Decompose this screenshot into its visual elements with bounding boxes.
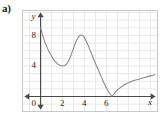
- y-tick-label: 8: [32, 31, 37, 40]
- x-tick-label: 2: [60, 99, 65, 108]
- function-curve: [41, 28, 155, 96]
- figure-panel: a) y x 0 246 48: [0, 0, 160, 120]
- plot-area: y x 0 246 48: [22, 10, 158, 112]
- x-axis-label: x: [148, 98, 152, 107]
- x-tick-label: 4: [82, 99, 87, 108]
- x-tick-label: 6: [104, 99, 109, 108]
- part-label: a): [2, 2, 11, 14]
- graph-svg: [23, 11, 157, 111]
- axes: [25, 13, 156, 110]
- origin-tick-label: 0: [32, 99, 37, 108]
- y-tick-label: 4: [32, 61, 37, 70]
- y-axis-label: y: [32, 12, 36, 21]
